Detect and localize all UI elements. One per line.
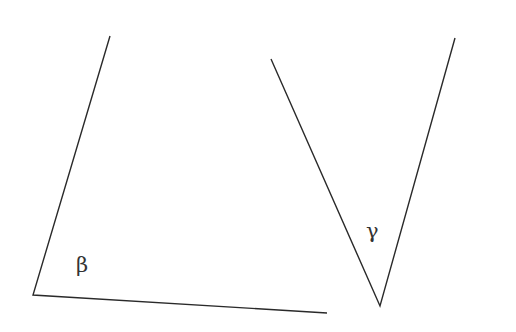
diagram-canvas: β γ — [0, 0, 516, 332]
angle-gamma: γ — [271, 38, 455, 306]
angle-beta-label: β — [76, 253, 88, 277]
angle-gamma-label: γ — [366, 219, 379, 243]
angles-figure: β γ — [0, 0, 516, 332]
angle-gamma-rays — [271, 38, 455, 306]
angle-beta: β — [33, 36, 327, 313]
